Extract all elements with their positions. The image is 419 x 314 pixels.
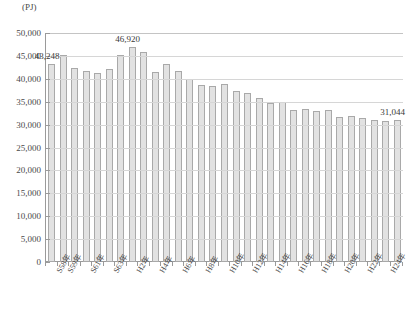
y-axis-tick-mark <box>46 102 50 103</box>
y-axis-tick-label: 30,000 <box>0 120 41 130</box>
bar <box>163 64 170 262</box>
gridline <box>46 79 403 80</box>
gridline <box>46 33 403 34</box>
bar <box>140 52 147 262</box>
bar <box>336 117 343 262</box>
bar <box>382 121 389 262</box>
y-axis-tick-label: 15,000 <box>0 188 41 198</box>
bar <box>60 55 67 262</box>
data-label: 31,044 <box>380 107 405 117</box>
gridline <box>46 102 403 103</box>
y-axis-tick-label: 50,000 <box>0 28 41 38</box>
y-axis: 50,00045,00040,00035,00030,00025,00020,0… <box>0 0 43 314</box>
bar <box>209 86 216 262</box>
gridline <box>46 148 403 149</box>
y-axis-tick-mark <box>46 79 50 80</box>
bar <box>244 93 251 262</box>
bar <box>371 120 378 262</box>
data-label: 46,920 <box>115 34 140 44</box>
y-axis-tick-mark <box>46 33 50 34</box>
gridline <box>46 125 403 126</box>
bar <box>175 71 182 262</box>
bar <box>152 72 159 262</box>
bar <box>48 64 55 262</box>
y-axis-tick-label: 35,000 <box>0 97 41 107</box>
gridline <box>46 56 403 57</box>
bar <box>348 116 355 262</box>
y-axis-tick-mark <box>46 239 50 240</box>
y-axis-tick-label: 25,000 <box>0 143 41 153</box>
bar <box>279 102 286 262</box>
bar <box>267 103 274 262</box>
gridline <box>46 216 403 217</box>
energy-consumption-bar-chart: (PJ) 50,00045,00040,00035,00030,00025,00… <box>0 0 419 314</box>
bar <box>117 55 124 262</box>
bar <box>71 68 78 262</box>
plot-area <box>45 33 402 262</box>
bar <box>83 71 90 262</box>
bar <box>233 91 240 262</box>
y-axis-tick-label: 0 <box>0 257 41 267</box>
gridline <box>46 170 403 171</box>
gridline <box>46 239 403 240</box>
y-axis-tick-mark <box>46 148 50 149</box>
y-axis-tick-mark <box>46 170 50 171</box>
bar <box>394 120 401 262</box>
bar <box>256 98 263 262</box>
y-axis-tick-mark <box>46 125 50 126</box>
y-axis-tick-mark <box>46 193 50 194</box>
y-axis-tick-label: 40,000 <box>0 74 41 84</box>
bar <box>198 85 205 262</box>
bar <box>359 118 366 262</box>
y-axis-tick-label: 20,000 <box>0 165 41 175</box>
gridline <box>46 193 403 194</box>
y-axis-tick-label: 10,000 <box>0 211 41 221</box>
x-axis-tick-mark <box>45 262 46 266</box>
bar <box>106 69 113 262</box>
data-label: 43,248 <box>35 51 60 61</box>
x-axis: S58年S59年S61年S63年H2年H4年H6年H8年H10年H12年H14年… <box>45 262 402 314</box>
y-axis-tick-mark <box>46 216 50 217</box>
y-axis-tick-label: 5,000 <box>0 234 41 244</box>
bar <box>221 84 228 262</box>
